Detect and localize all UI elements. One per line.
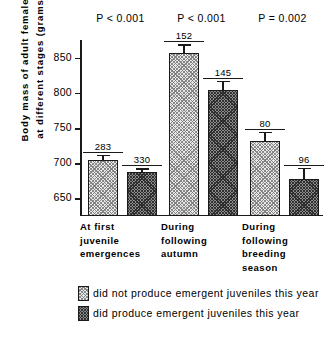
y-tick-label: 650 (42, 191, 72, 203)
error-bar-group-3-series-2 (303, 168, 304, 179)
y-tick-label: 850 (42, 51, 72, 63)
category-3-line-1: During (242, 220, 288, 234)
y-tick-mark (75, 163, 81, 165)
y-tick-label: 800 (42, 86, 72, 98)
category-2-line-1: During (161, 220, 207, 234)
category-1-line-2: juvenile (80, 234, 140, 248)
sample-size-label-group-2-series-1: 152 (164, 30, 204, 42)
bar-group-3-series-2 (289, 179, 319, 216)
y-axis-title: Body mass of adult females at different … (17, 0, 51, 167)
legend-item-did-produce: did produce emergent juveniles this year (78, 303, 323, 323)
legend-swatch-dark-icon (78, 306, 89, 321)
category-1-line-1: At first (80, 220, 140, 234)
category-label-3: During following breeding season (242, 220, 288, 274)
error-bar-cap-group-2-series-1 (178, 44, 191, 45)
error-bar-cap-group-3-series-2 (298, 168, 311, 169)
sample-size-label-group-2-series-2: 145 (203, 67, 243, 79)
legend-label-1: did not produce emergent juveniles this … (93, 287, 319, 299)
category-2-line-2: following (161, 234, 207, 248)
sample-size-label-group-3-series-2: 96 (284, 154, 324, 166)
pvalue-group-3: P = 0.002 (242, 12, 323, 24)
legend-swatch-light-icon (78, 286, 89, 301)
y-tick-label: 700 (42, 156, 72, 168)
bar-group-3-series-1 (250, 141, 280, 216)
pvalue-group-1: P < 0.001 (80, 12, 161, 24)
y-tick-mark (75, 93, 81, 95)
y-tick-mark (75, 58, 81, 60)
category-1-line-3: emergences (80, 247, 140, 261)
category-3-line-2: following (242, 234, 288, 248)
category-label-1: At first juvenile emergences (80, 220, 140, 261)
x-axis-category-labels: At first juvenile emergences During foll… (80, 220, 327, 280)
category-3-line-4: season (242, 261, 288, 275)
plot-area: 650 700 750 800 850 2833301521458096 (80, 40, 323, 216)
pvalue-annotation-row: P < 0.001 P < 0.001 P = 0.002 (80, 12, 323, 28)
error-bar-cap-group-3-series-1 (259, 132, 272, 133)
y-tick-mark (75, 128, 81, 130)
error-bar-cap-group-1-series-2 (136, 168, 149, 169)
y-tick-mark (75, 198, 81, 200)
chart-legend: did not produce emergent juveniles this … (78, 283, 323, 323)
category-3-line-3: breeding (242, 247, 288, 261)
y-axis-title-line-1: Body mass of adult females (17, 0, 32, 167)
category-label-2: During following autumn (161, 220, 207, 261)
bar-group-1-series-2 (127, 172, 157, 216)
bar-group-2-series-2 (208, 90, 238, 216)
sample-size-label-group-1-series-2: 330 (122, 154, 162, 166)
sample-size-label-group-1-series-1: 283 (83, 141, 123, 153)
bar-group-1-series-1 (88, 160, 118, 216)
sample-size-label-group-3-series-1: 80 (245, 118, 285, 130)
legend-item-did-not-produce: did not produce emergent juveniles this … (78, 283, 323, 303)
legend-label-2: did produce emergent juveniles this year (93, 307, 300, 319)
y-tick-label: 750 (42, 121, 72, 133)
error-bar-cap-group-1-series-1 (97, 155, 110, 156)
bar-group-2-series-1 (169, 53, 199, 216)
y-axis-title-line-2: at different stages (grams) (32, 0, 47, 167)
pvalue-group-2: P < 0.001 (161, 12, 242, 24)
category-2-line-3: autumn (161, 247, 207, 261)
error-bar-cap-group-2-series-2 (217, 81, 230, 82)
